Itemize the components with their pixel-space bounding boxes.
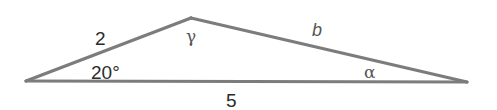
angle-right-label: α: [364, 62, 376, 82]
side-right: [191, 18, 467, 82]
side-left-label: 2: [95, 28, 106, 49]
triangle-diagram: 2 b 5 20° γ α: [0, 0, 497, 110]
side-base-label: 5: [226, 90, 237, 110]
angle-left-label: 20°: [91, 62, 120, 83]
side-right-label: b: [312, 20, 322, 40]
angle-top-label: γ: [186, 26, 196, 46]
